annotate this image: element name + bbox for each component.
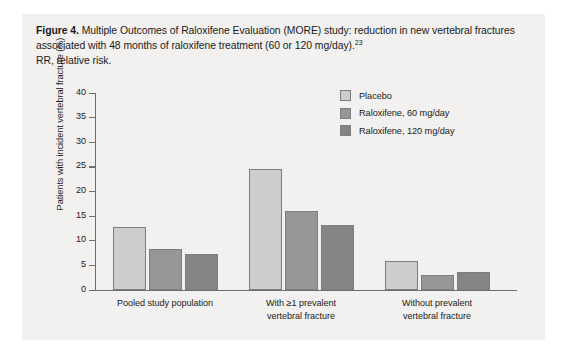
legend-swatch-icon [340,125,351,136]
x-axis-group-label: Without prevalentvertebral fracture [362,297,512,322]
legend-label: Raloxifene, 120 mg/day [359,126,454,136]
bar [457,272,490,290]
legend-swatch-icon [340,108,351,119]
bar [285,211,318,290]
chart-plot-area: Patients with incident vertebral fractur… [22,14,545,340]
x-axis-group-label: Pooled study population [90,297,240,310]
bar [249,169,282,290]
legend-label: Placebo [359,91,392,101]
bar [149,249,182,290]
bar [385,261,418,290]
bars-layer [22,14,545,340]
bar [185,254,218,290]
legend-item: Placebo [340,87,454,105]
bar [421,275,454,290]
legend-item: Raloxifene, 120 mg/day [340,122,454,140]
figure-panel: Figure 4. Multiple Outcomes of Raloxifen… [22,14,545,340]
bar [321,225,354,290]
bar [113,227,146,290]
legend-item: Raloxifene, 60 mg/day [340,105,454,123]
legend-swatch-icon [340,90,351,101]
legend-label: Raloxifene, 60 mg/day [359,108,449,118]
x-axis-group-label: With ≥1 prevalentvertebral fracture [226,297,376,322]
chart-legend: PlaceboRaloxifene, 60 mg/dayRaloxifene, … [340,87,454,140]
